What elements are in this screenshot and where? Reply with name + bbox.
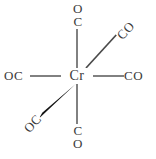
ligand-label-top-line1: O [73, 2, 83, 15]
ligand-label-bottom-line2: O [73, 137, 83, 150]
ligand-label-left: OC [4, 69, 23, 82]
chemical-structure-figure: O C OC Cr CO CO OC C O [0, 0, 156, 159]
center-atom-label: Cr [63, 68, 91, 84]
ligand-label-top: O C [70, 2, 86, 29]
bond-upper-right [86, 33, 118, 68]
ligand-label-bottom-line1: C [73, 124, 82, 137]
bond-lower-left-wedge [39, 80, 80, 118]
ligand-label-top-line2: C [73, 15, 82, 28]
ligand-label-right: CO [124, 69, 143, 82]
ligand-label-bottom: C O [70, 124, 86, 151]
